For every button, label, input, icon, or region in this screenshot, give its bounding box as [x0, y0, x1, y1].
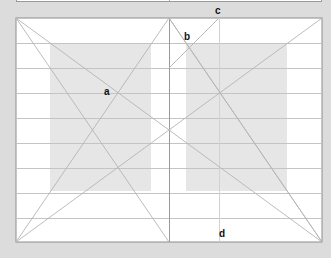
label-b: b [184, 32, 190, 42]
label-c: c [215, 6, 221, 16]
page-construction-diagram [0, 0, 331, 258]
label-d: d [219, 229, 225, 239]
label-a: a [104, 87, 110, 97]
